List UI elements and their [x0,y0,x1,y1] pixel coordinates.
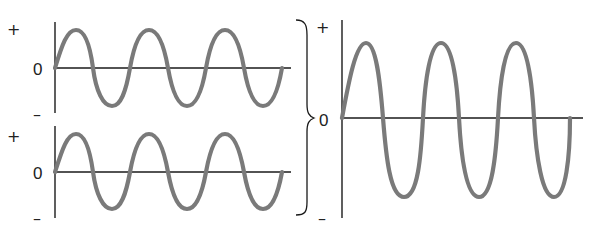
zero-label: 0 [33,60,42,79]
interference-diagram: + 0 – + 0 – + 0 – [0,0,603,233]
plus-label: + [316,18,329,37]
right-curly-brace-icon [296,20,314,215]
wave-panel-sum: + 0 – [316,18,583,228]
minus-label: – [33,209,41,228]
wave-panel-top: + 0 – [7,20,291,124]
zero-label: 0 [33,164,42,183]
plus-label: + [7,127,20,146]
minus-label: – [318,209,326,228]
sum-sine-wave [342,43,570,197]
wave-panel-bottom: + 0 – [7,126,291,228]
minus-label: – [33,105,41,124]
zero-label: 0 [319,111,328,130]
plus-label: + [7,20,20,39]
